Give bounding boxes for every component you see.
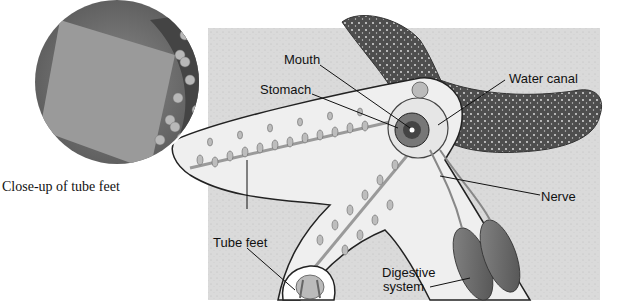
label-tube-feet: Tube feet bbox=[213, 236, 267, 250]
label-nerve: Nerve bbox=[541, 190, 576, 204]
label-digestive-system-line1: Digestive bbox=[382, 266, 435, 280]
label-mouth: Mouth bbox=[284, 53, 320, 67]
inset-caption: Close-up of tube feet bbox=[2, 179, 120, 195]
starfish-illustration bbox=[0, 0, 617, 307]
label-water-canal: Water canal bbox=[509, 72, 578, 86]
label-stomach: Stomach bbox=[260, 83, 311, 97]
starfish-anatomy-figure: Close-up of tube feet Mouth Stomach Wate… bbox=[0, 0, 617, 307]
label-digestive-system-line2: system bbox=[383, 280, 424, 294]
